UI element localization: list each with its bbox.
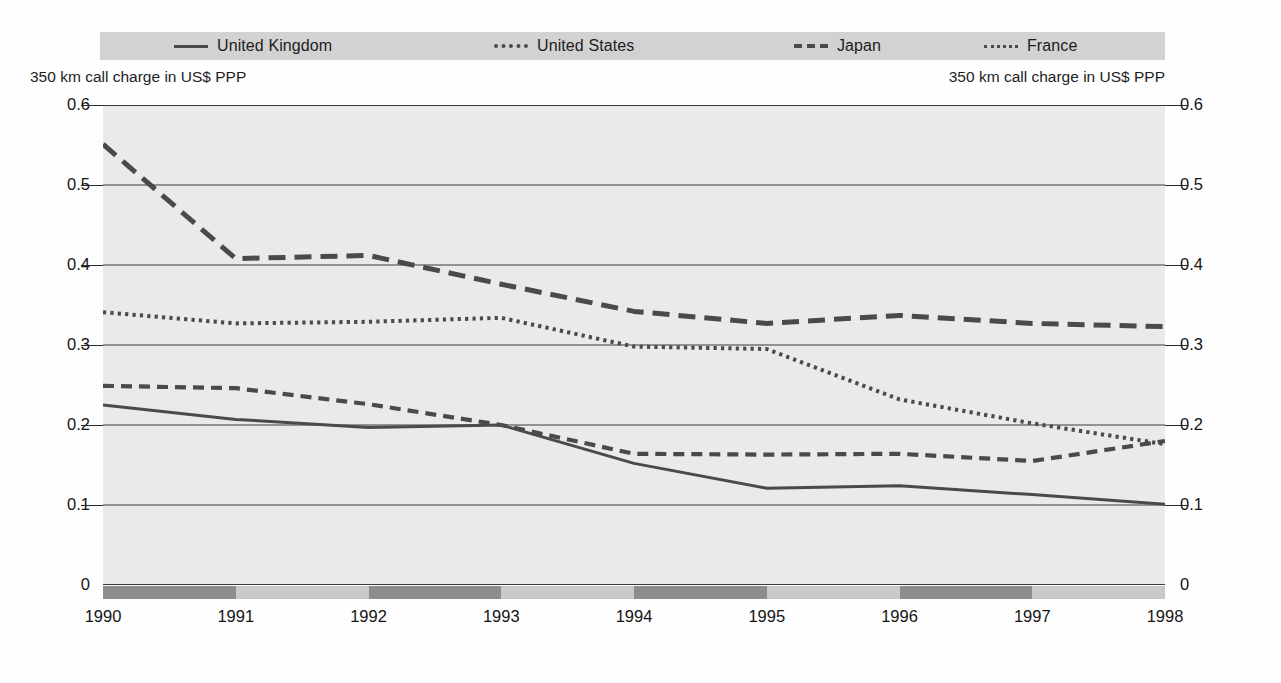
y-tick-mark-right (1165, 265, 1187, 266)
x-tick-label: 1992 (350, 607, 387, 626)
plot-area (103, 105, 1165, 585)
legend-label-japan: Japan (837, 37, 881, 55)
legend-item-united-kingdom[interactable]: United Kingdom (174, 32, 332, 60)
legend-label-united-states: United States (537, 37, 634, 55)
x-band-segment (103, 586, 236, 599)
legend-label-united-kingdom: United Kingdom (217, 37, 332, 55)
chart-legend: United Kingdom United States Japan Franc… (100, 32, 1165, 60)
series-lines (103, 144, 1165, 504)
x-band-segment (634, 586, 767, 599)
series-line-united-kingdom (103, 405, 1165, 504)
x-tick-label: 1990 (85, 607, 122, 626)
series-line-united-states (103, 386, 1165, 461)
line-solid-icon (174, 45, 208, 48)
y-tick-mark-left (81, 105, 103, 106)
chart-svg (103, 105, 1165, 585)
y-tick-label-left: 0 (81, 576, 90, 593)
series-line-france (103, 312, 1165, 444)
y-tick-mark-left (81, 345, 103, 346)
x-tick-label: 1996 (881, 607, 918, 626)
axis-caption-left: 350 km call charge in US$ PPP (30, 68, 246, 86)
x-tick-label: 1998 (1147, 607, 1184, 626)
series-line-japan (103, 144, 1165, 326)
y-tick-mark-left (81, 265, 103, 266)
y-tick-mark-left (81, 425, 103, 426)
y-tick-mark-right (1165, 185, 1187, 186)
y-tick-label-right: 0 (1180, 576, 1189, 593)
chart-figure: in the 1990s. The total international ca… (0, 0, 1281, 683)
x-tick-label: 1997 (1014, 607, 1051, 626)
y-tick-mark-left (81, 505, 103, 506)
x-band-segment (369, 586, 502, 599)
y-tick-mark-right (1165, 505, 1187, 506)
x-tick-label: 1993 (483, 607, 520, 626)
x-axis-band (103, 586, 1165, 599)
y-tick-mark-right (1165, 105, 1187, 106)
legend-item-japan[interactable]: Japan (794, 32, 881, 60)
y-tick-mark-right (1165, 345, 1187, 346)
y-tick-mark-right (1165, 425, 1187, 426)
x-tick-label: 1991 (217, 607, 254, 626)
axis-caption-right: 350 km call charge in US$ PPP (949, 68, 1165, 86)
x-band-segment (900, 586, 1033, 599)
x-tick-label: 1995 (748, 607, 785, 626)
y-tick-mark-left (81, 185, 103, 186)
legend-item-united-states[interactable]: United States (494, 32, 634, 60)
line-dashed-icon (794, 44, 828, 48)
x-tick-label: 1994 (616, 607, 653, 626)
legend-item-france[interactable]: France (984, 32, 1077, 60)
line-fine-dotted-icon (984, 45, 1018, 48)
legend-label-france: France (1027, 37, 1077, 55)
line-dotted-icon (494, 44, 528, 48)
